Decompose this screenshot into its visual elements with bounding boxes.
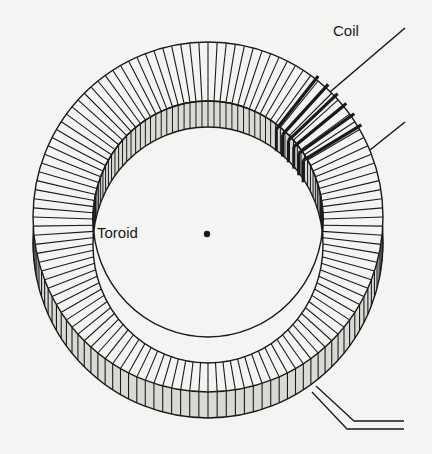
toroid-drawing bbox=[0, 0, 432, 454]
lead-wires bbox=[312, 386, 404, 429]
coil-label: Coil bbox=[333, 22, 359, 39]
toroid-diagram: Coil Toroid bbox=[0, 0, 432, 454]
toroid-label: Toroid bbox=[97, 224, 138, 241]
center-dot bbox=[204, 231, 210, 237]
